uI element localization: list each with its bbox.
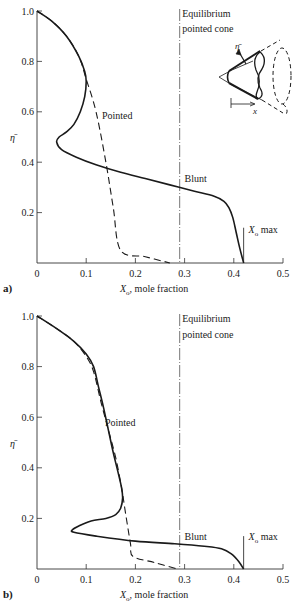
y-tick-label: 0.2 — [22, 513, 35, 524]
y-tick-label: 1.0 — [22, 311, 35, 322]
annotation-equilibrium: Equilibrium — [182, 8, 231, 19]
inset-eta-label: η̄ — [235, 41, 242, 51]
y-axis-label: η̄ — [10, 132, 18, 143]
series-blunt-line — [37, 11, 244, 263]
annotation-pointed: Pointed — [105, 417, 136, 428]
chart-panel-b: 00.10.20.30.40.50.20.40.60.81.0η̄Xo, mol… — [3, 311, 289, 604]
y-tick-label: 0.4 — [22, 157, 35, 168]
figure: 00.10.20.30.40.50.20.40.60.81.0η̄Xo, mol… — [0, 0, 297, 608]
x-tick-label: 0 — [35, 574, 40, 585]
x-tick-label: 0.1 — [80, 574, 93, 585]
chart-panel-a: 00.10.20.30.40.50.20.40.60.81.0η̄Xo, mol… — [3, 6, 289, 298]
cone-schematic-inset — [219, 40, 291, 116]
x-tick-label: 0.5 — [277, 574, 290, 585]
y-tick-label: 0.6 — [22, 106, 35, 117]
annotation-x-o-max: Xo max — [248, 531, 278, 545]
annotation-x-o-max: Xo max — [248, 224, 278, 238]
x-tick-label: 0.1 — [80, 268, 93, 279]
annotation-equilibrium: Equilibrium — [182, 313, 231, 324]
x-tick-label: 0.5 — [277, 268, 290, 279]
x-tick-label: 0.3 — [178, 574, 191, 585]
inset-x-label: x — [252, 106, 257, 116]
x-axis-label: Xo, mole fraction — [119, 283, 188, 297]
annotation-blunt: Blunt — [185, 531, 207, 542]
y-tick-label: 0.8 — [22, 361, 35, 372]
x-tick-label: 0.2 — [129, 574, 142, 585]
annotation-blunt: Blunt — [185, 173, 207, 184]
x-axis-label: Xo, mole fraction — [119, 589, 188, 603]
x-tick-label: 0 — [35, 268, 40, 279]
y-tick-label: 1.0 — [22, 6, 35, 17]
y-tick-label: 0.6 — [22, 412, 35, 423]
series-pointed-line — [37, 316, 177, 569]
annotation-pointed-cone: pointed cone — [182, 329, 234, 340]
panel-label: b) — [3, 588, 13, 601]
y-axis-label: η̄ — [10, 438, 18, 449]
y-tick-label: 0.8 — [22, 56, 35, 67]
annotation-pointed-cone: pointed cone — [182, 23, 234, 34]
x-tick-label: 0.4 — [228, 268, 241, 279]
series-pointed-line — [37, 11, 170, 263]
panel-label: a) — [3, 282, 13, 295]
x-tick-label: 0.4 — [228, 574, 241, 585]
series-blunt-line — [37, 316, 244, 569]
y-tick-label: 0.2 — [22, 207, 35, 218]
annotation-pointed: Pointed — [102, 110, 133, 121]
y-tick-label: 0.4 — [22, 462, 35, 473]
x-tick-label: 0.2 — [129, 268, 142, 279]
x-tick-label: 0.3 — [178, 268, 191, 279]
